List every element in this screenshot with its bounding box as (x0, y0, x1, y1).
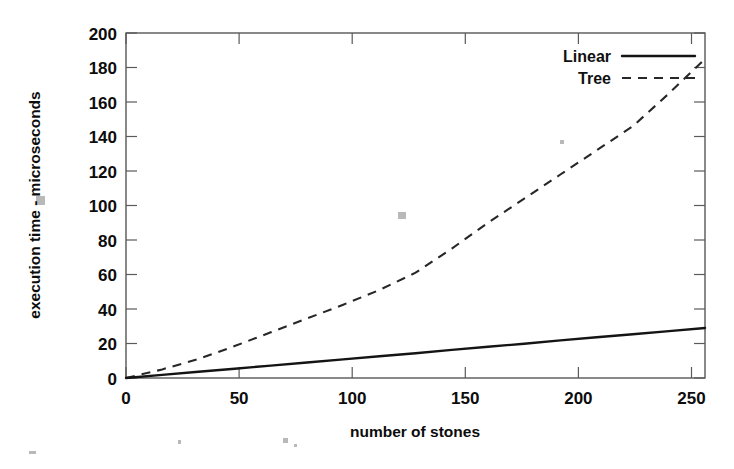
y-tick-7: 140 (89, 128, 705, 147)
y-tick-label: 120 (89, 163, 117, 182)
y-tick-label: 20 (98, 335, 117, 354)
legend-label-linear: Linear (563, 48, 611, 65)
y-tick-9: 180 (89, 59, 705, 78)
x-tick-label: 0 (121, 389, 130, 408)
y-tick-8: 160 (89, 94, 705, 113)
y-tick-label: 180 (89, 59, 117, 78)
y-tick-label: 80 (98, 232, 117, 251)
series-tree-line (126, 59, 705, 378)
y-tick-2: 40 (98, 301, 705, 320)
x-tick-2: 100 (338, 33, 366, 408)
legend-entry-linear: Linear (563, 48, 695, 65)
y-tick-5: 100 (89, 197, 705, 216)
x-tick-4: 200 (564, 33, 592, 408)
x-axis-title: number of stones (350, 423, 480, 440)
line-chart: 0 20 40 60 80 (0, 0, 734, 469)
x-tick-5: 250 (677, 33, 705, 408)
x-tick-1: 50 (230, 33, 249, 408)
x-tick-label: 250 (677, 389, 705, 408)
y-tick-1: 20 (98, 335, 705, 354)
y-axis-ticks: 0 20 40 60 80 (89, 25, 705, 389)
y-axis-title: execution time - microseconds (26, 91, 43, 318)
y-tick-label: 140 (89, 128, 117, 147)
y-tick-10: 200 (89, 25, 705, 44)
x-tick-label: 100 (338, 389, 366, 408)
y-tick-label: 200 (89, 25, 117, 44)
x-tick-3: 150 (451, 33, 479, 408)
legend-label-tree: Tree (578, 70, 611, 87)
y-tick-6: 120 (89, 163, 705, 182)
x-tick-label: 150 (451, 389, 479, 408)
plot-frame (126, 33, 705, 378)
x-tick-label: 50 (230, 389, 249, 408)
y-tick-3: 60 (98, 266, 705, 285)
series-linear-line (126, 328, 705, 378)
y-tick-label: 160 (89, 94, 117, 113)
scan-artifacts (29, 140, 564, 454)
y-tick-label: 60 (98, 266, 117, 285)
y-tick-label: 0 (108, 370, 117, 389)
chart-figure: 0 20 40 60 80 (0, 0, 734, 469)
x-axis-ticks: 0 50 100 150 200 (121, 33, 705, 408)
x-tick-label: 200 (564, 389, 592, 408)
legend: Linear Tree (563, 48, 695, 87)
y-tick-4: 80 (98, 232, 705, 251)
y-tick-label: 40 (98, 301, 117, 320)
y-tick-label: 100 (89, 197, 117, 216)
